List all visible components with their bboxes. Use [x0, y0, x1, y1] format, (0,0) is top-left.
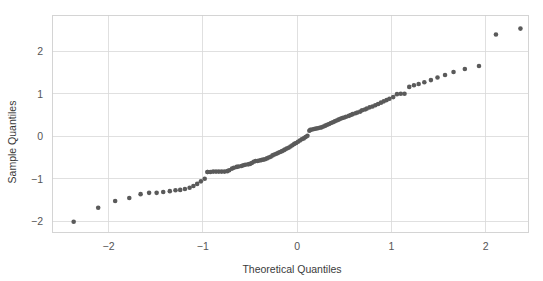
data-point: [113, 199, 118, 204]
qq-plot-figure: −2−1012 −2−1012 Theoretical Quantiles Sa…: [0, 0, 543, 281]
y-tick-label: −2: [31, 215, 43, 227]
data-point: [422, 80, 427, 85]
data-point: [199, 179, 204, 184]
data-point: [402, 91, 407, 96]
data-point: [451, 70, 456, 75]
y-tick-label: 1: [37, 88, 43, 100]
x-tick-label: 0: [294, 240, 300, 252]
data-point: [407, 85, 412, 90]
data-point: [443, 73, 448, 78]
grid-layer: [52, 15, 528, 232]
qq-plot-canvas: −2−1012 −2−1012 Theoretical Quantiles Sa…: [0, 0, 543, 281]
data-point: [305, 134, 310, 139]
data-point: [168, 189, 173, 194]
data-point: [435, 75, 440, 80]
data-point: [477, 64, 482, 69]
y-axis-title: Sample Quantiles: [6, 101, 18, 184]
data-point: [138, 192, 143, 197]
x-tick-label: 1: [388, 240, 394, 252]
data-point: [429, 78, 434, 83]
data-point: [147, 191, 152, 196]
data-point: [154, 191, 159, 196]
data-point: [391, 95, 396, 100]
data-point: [161, 190, 166, 195]
y-axis-tick-labels: −2−1012: [31, 45, 43, 227]
x-axis-tick-labels: −2−1012: [103, 240, 489, 252]
y-tick-label: 0: [37, 130, 43, 142]
data-point: [195, 182, 200, 187]
data-point: [178, 188, 183, 193]
data-point: [412, 83, 417, 88]
x-tick-label: 2: [483, 240, 489, 252]
data-point: [494, 32, 499, 37]
data-point: [463, 67, 468, 72]
data-point: [183, 187, 188, 192]
data-point: [173, 188, 178, 193]
x-axis-title: Theoretical Quantiles: [242, 263, 341, 275]
x-tick-label: −1: [197, 240, 209, 252]
data-point: [71, 219, 76, 224]
data-point: [518, 26, 523, 31]
data-point: [416, 82, 421, 87]
data-point: [127, 196, 132, 201]
data-point: [96, 205, 101, 210]
x-tick-label: −2: [103, 240, 115, 252]
y-tick-label: 2: [37, 45, 43, 57]
y-tick-label: −1: [31, 173, 43, 185]
data-point: [202, 177, 207, 182]
plot-area-border: [52, 15, 528, 232]
